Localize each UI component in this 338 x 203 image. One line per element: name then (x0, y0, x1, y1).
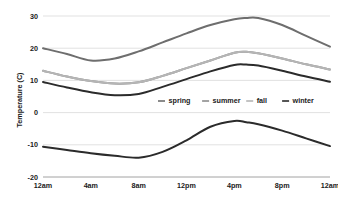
legend-label-summer: summer (213, 96, 241, 105)
y-tick--10: -10 (28, 140, 38, 149)
x-axis-tick-labels: 12am4am8am12pm4pm8pm12am (34, 181, 338, 190)
x-tick-4: 4pm (227, 181, 242, 190)
legend-label-winter: winter (292, 96, 314, 105)
chart-legend: springsummerfallwinter (158, 96, 314, 105)
y-tick-0: 0 (34, 108, 38, 117)
x-tick-6: 12am (321, 181, 338, 190)
y-tick-30: 30 (30, 12, 38, 21)
y-axis-title: Temperature (C) (15, 72, 24, 128)
x-tick-1: 4am (84, 181, 98, 190)
x-tick-5: 8pm (275, 181, 290, 190)
y-tick-10: 10 (30, 76, 38, 85)
x-tick-2: 8am (131, 181, 145, 190)
x-tick-0: 12am (34, 181, 52, 190)
chart-canvas: 3020100-10-20 12am4am8am12pm4pm8pm12am T… (0, 0, 338, 203)
temperature-line-chart: 3020100-10-20 12am4am8am12pm4pm8pm12am T… (0, 0, 338, 203)
series-line-winter-low (43, 121, 330, 158)
series-line-spring (43, 17, 330, 60)
series-lines (43, 17, 330, 157)
legend-label-spring: spring (169, 96, 191, 105)
x-tick-3: 12pm (177, 181, 196, 190)
legend-label-fall: fall (257, 96, 267, 105)
y-tick-20: 20 (30, 44, 38, 53)
y-axis-tick-labels: 3020100-10-20 (28, 12, 38, 182)
